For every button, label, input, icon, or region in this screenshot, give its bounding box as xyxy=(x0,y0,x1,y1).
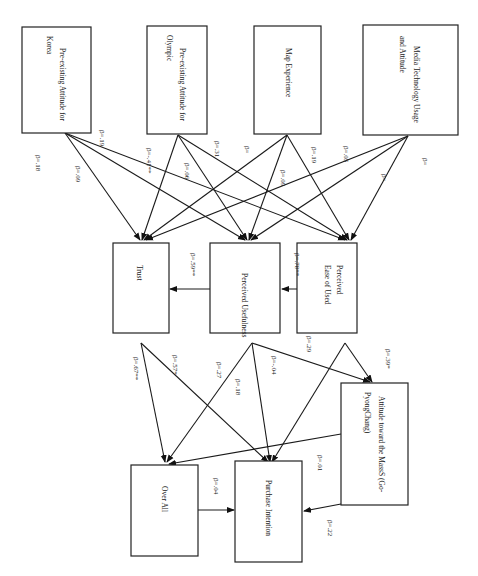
svg-text:β=-.04: β=-.04 xyxy=(270,356,278,375)
svg-text:β=.18: β=.18 xyxy=(234,379,242,396)
svg-text:β=.06: β=.06 xyxy=(183,163,191,180)
node-over-all: Over All xyxy=(131,465,198,556)
node-trust: Trust xyxy=(113,243,169,333)
svg-text:β=.39*: β=.39* xyxy=(384,349,392,369)
node-map-experience: Map Experience xyxy=(254,26,321,134)
svg-text:Ease of Used: Ease of Used xyxy=(323,265,332,305)
svg-text:Over All: Over All xyxy=(160,486,169,512)
svg-text:β=.31: β=.31 xyxy=(213,141,221,158)
path-model-diagram: Pre-existing Attitude for Korea Pre-exis… xyxy=(0,0,478,576)
svg-text:β=.67**: β=.67** xyxy=(132,357,140,381)
svg-text:β=: β= xyxy=(421,158,429,166)
svg-text:Perceived: Perceived xyxy=(335,265,344,295)
svg-text:β=.19: β=.19 xyxy=(310,147,318,164)
svg-text:β=.04: β=.04 xyxy=(212,478,220,495)
svg-text:β=.22: β=.22 xyxy=(326,520,334,537)
svg-text:β=.18: β=.18 xyxy=(34,155,42,172)
svg-text:β=.78**: β=.78** xyxy=(293,253,301,277)
svg-text:β=.09: β=.09 xyxy=(279,170,287,187)
svg-text:β=.19: β=.19 xyxy=(98,130,106,147)
node-perceived-ease: Perceived Ease of Used xyxy=(297,243,357,333)
svg-text:β=.27: β=.27 xyxy=(215,362,223,379)
svg-text:Attitude toward the MassS (: Attitude toward the MassS (Go- xyxy=(377,396,386,493)
svg-text:β=-.41**: β=-.41** xyxy=(145,148,153,174)
svg-text:β=.01: β=.01 xyxy=(316,455,324,472)
node-perceived-usefulness: Perceived Usefulness xyxy=(210,243,280,337)
svg-text:Media Technology Usage: Media Technology Usage xyxy=(412,46,421,123)
node-olympic: Pre-existing Attitude for Olympic xyxy=(147,26,207,134)
svg-text:Map Experience: Map Experience xyxy=(284,48,293,98)
svg-text:Pre-existing Attitude for: Pre-existing Attitude for xyxy=(178,48,187,121)
svg-text:Perceived Usefulness: Perceived Usefulness xyxy=(240,273,249,337)
node-attitude-mass: Attitude toward the MassS (Go- PyongChan… xyxy=(341,383,408,505)
svg-text:Purchase Intention: Purchase Intention xyxy=(264,480,273,536)
svg-text:β=.57*: β=.57* xyxy=(171,355,179,375)
svg-text:PyongChang): PyongChang) xyxy=(363,392,372,434)
node-purchase-intention: Purchase Intention xyxy=(235,461,302,562)
svg-text:Pre-existing Attitude for: Pre-existing Attitude for xyxy=(58,48,67,121)
svg-text:Trust: Trust xyxy=(135,265,144,281)
node-korea: Pre-existing Attitude for Korea xyxy=(22,27,91,133)
node-media-technology: Media Technology Usage and Attitude xyxy=(363,25,458,135)
svg-text:β=.59**: β=.59** xyxy=(189,253,197,277)
svg-text:β=.29: β=.29 xyxy=(305,336,313,353)
svg-text:β=: β= xyxy=(380,174,388,182)
svg-text:β=.05: β=.05 xyxy=(342,146,350,163)
svg-text:and Attitude: and Attitude xyxy=(398,36,407,74)
svg-text:Olympic: Olympic xyxy=(165,35,174,62)
svg-text:β=.09: β=.09 xyxy=(74,166,82,183)
svg-text:β=: β= xyxy=(243,146,251,154)
svg-text:Korea: Korea xyxy=(45,36,54,55)
